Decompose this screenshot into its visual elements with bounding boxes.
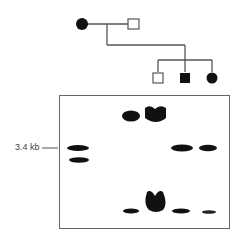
pedigree [82, 24, 212, 72]
band-lane1-3.4kb [67, 145, 89, 151]
affected-female-daughter [207, 73, 218, 84]
band-lane2-top [122, 111, 140, 122]
band-lane4-bottom [172, 209, 190, 214]
band-lane2-bottom [123, 209, 139, 214]
band-lane1-lower [69, 157, 89, 162]
band-lane5-3.4kb [199, 145, 217, 151]
affected-female-mother [76, 18, 88, 30]
band-lane5-bottom [202, 210, 216, 214]
affected-male-son [180, 73, 190, 83]
band-lane3-top [145, 106, 166, 122]
marker-label: 3.4 kb [15, 142, 40, 152]
band-lane4-3.4kb [171, 145, 193, 152]
pedigree-and-gel-diagram [0, 0, 241, 240]
unaffected-male-son [153, 73, 163, 83]
unaffected-male-father [128, 19, 139, 29]
